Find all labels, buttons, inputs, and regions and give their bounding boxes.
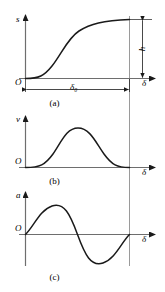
panel-c-y-axis-label: a — [16, 190, 21, 200]
panel-b-origin-label: O — [15, 156, 22, 166]
panel-a — [19, 15, 155, 92]
panel-a-caption: (a) — [0, 98, 137, 108]
panel-c — [19, 192, 155, 266]
panel-b-y-axis-label: v — [16, 114, 20, 124]
h-label: h — [137, 43, 147, 55]
panel-b-caption: (b) — [0, 176, 137, 186]
panel-a-origin-label: O — [15, 77, 22, 87]
panel-c-origin-label: O — [15, 223, 22, 233]
panel-b — [19, 116, 155, 168]
panel-a-x-axis-label: δ — [142, 78, 146, 88]
displacement-curve — [26, 20, 130, 79]
panel-c-x-axis-label: δ — [142, 234, 146, 244]
panel-b-x-axis-label: δ — [142, 167, 146, 177]
velocity-curve — [26, 128, 130, 168]
panel-a-y-axis-label: s — [16, 14, 20, 24]
delta0-label: δ₀ — [70, 82, 77, 92]
cam-motion-diagram: s O δ δ₀ h (a) v O δ (b) a O δ (c) — [0, 0, 165, 292]
panel-c-caption: (c) — [0, 272, 137, 282]
